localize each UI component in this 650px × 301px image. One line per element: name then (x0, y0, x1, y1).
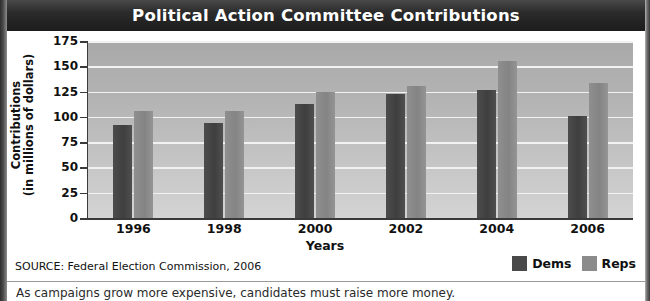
x-axis-tick-label: 2004 (479, 221, 514, 236)
legend-item-reps: Reps (582, 256, 637, 271)
bar-reps-2006 (589, 83, 608, 218)
page-edge-right (645, 0, 650, 301)
y-axis-tick (80, 142, 88, 144)
bar-dems-2002 (386, 94, 405, 218)
legend-label-dems: Dems (532, 256, 571, 271)
source-note: SOURCE: Federal Election Commission, 200… (15, 260, 261, 273)
bar-dems-2004 (477, 90, 496, 218)
y-axis-tick-label: 0 (44, 211, 78, 225)
legend-swatch-dems (512, 256, 527, 271)
x-axis-tick-label: 2000 (298, 221, 333, 236)
plot-area (88, 41, 633, 218)
bar-group (179, 41, 270, 218)
y-axis-tick (80, 41, 88, 43)
bar-dems-2006 (568, 116, 587, 218)
bar-reps-2000 (316, 92, 335, 218)
x-axis-tick-label: 1996 (116, 221, 151, 236)
bar-reps-2002 (407, 86, 426, 218)
x-axis-title: Years (0, 238, 650, 253)
chart-figure: Political Action Committee Contributions… (0, 0, 650, 301)
bar-dems-1998 (204, 123, 223, 218)
y-axis-tick-label: 50 (44, 160, 78, 174)
y-axis-tick-label: 75 (44, 135, 78, 149)
y-axis-tick-label: 125 (44, 85, 78, 99)
bar-group (451, 41, 542, 218)
y-axis-tick-label: 150 (44, 59, 78, 73)
y-axis-tick-label: 175 (44, 34, 78, 48)
caption-divider (7, 281, 645, 282)
bar-reps-1996 (134, 111, 153, 218)
chart-title-banner: Political Action Committee Contributions (7, 0, 645, 31)
x-axis-tick-label: 2006 (570, 221, 605, 236)
y-axis-title-line2: (in millions of dollars) (22, 54, 36, 197)
x-axis-tick-label: 2002 (389, 221, 424, 236)
y-axis-tick (80, 92, 88, 94)
bar-reps-1998 (225, 111, 244, 218)
bar-group (361, 41, 452, 218)
x-axis-line (80, 218, 633, 220)
y-axis-tick (80, 218, 88, 220)
y-axis-tick-label: 100 (44, 110, 78, 124)
x-axis-tick-label: 1998 (207, 221, 242, 236)
bar-group (270, 41, 361, 218)
y-axis-tick-labels: 1751501251007550250 (38, 0, 78, 301)
bar-dems-1996 (113, 125, 132, 218)
legend-item-dems: Dems (512, 256, 571, 271)
bar-group (88, 41, 179, 218)
legend-swatch-reps (582, 256, 597, 271)
y-axis-title-line1: Contributions (9, 81, 23, 169)
y-axis-title: Contributions (in millions of dollars) (10, 40, 36, 210)
y-axis-tick (80, 193, 88, 195)
chart-title: Political Action Committee Contributions (132, 6, 520, 25)
chart-legend: Dems Reps (512, 256, 636, 271)
legend-label-reps: Reps (602, 256, 637, 271)
page-edge-left (0, 0, 7, 301)
bar-reps-2004 (498, 61, 517, 218)
bar-dems-2000 (295, 104, 314, 218)
y-axis-tick (80, 167, 88, 169)
y-axis-tick-label: 25 (44, 186, 78, 200)
y-axis-tick (80, 66, 88, 68)
y-axis-tick (80, 117, 88, 119)
caption-text: As campaigns grow more expensive, candid… (16, 286, 616, 300)
bar-group (542, 41, 633, 218)
x-axis-tick-labels: 199619982000200220042006 (88, 221, 633, 239)
caption-region: As campaigns grow more expensive, candid… (16, 286, 616, 301)
